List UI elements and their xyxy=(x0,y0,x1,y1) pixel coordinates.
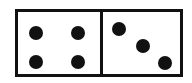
pip-left-bottom-left xyxy=(29,55,43,69)
domino-divider xyxy=(100,12,103,74)
pip-right-top xyxy=(112,22,126,36)
pip-right-bottom xyxy=(158,56,172,70)
domino-tile xyxy=(15,9,183,77)
pip-left-top-left xyxy=(29,26,43,40)
pip-left-top-right xyxy=(71,26,85,40)
pip-right-middle xyxy=(136,39,150,53)
pip-left-bottom-right xyxy=(71,55,85,69)
